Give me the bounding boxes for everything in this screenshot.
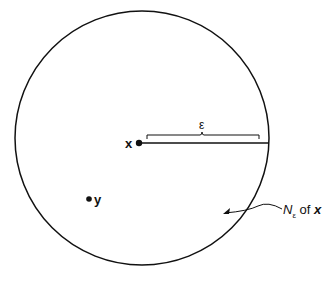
neighborhood-N: N bbox=[283, 202, 292, 217]
neighborhood-diagram bbox=[0, 0, 330, 286]
point-x bbox=[136, 140, 142, 146]
neighborhood-x: x bbox=[314, 202, 321, 217]
point-y bbox=[86, 196, 92, 202]
arrowhead bbox=[223, 208, 230, 214]
epsilon-brace bbox=[147, 132, 259, 139]
neighborhood-of: of bbox=[296, 202, 314, 217]
epsilon-label: ε bbox=[199, 119, 204, 131]
neighborhood-label: Nε of x bbox=[283, 203, 321, 220]
point-y-label: y bbox=[94, 193, 101, 206]
neighborhood-circle bbox=[15, 11, 269, 265]
neighborhood-pointer-arrow bbox=[225, 204, 282, 213]
point-x-label: x bbox=[125, 137, 132, 150]
